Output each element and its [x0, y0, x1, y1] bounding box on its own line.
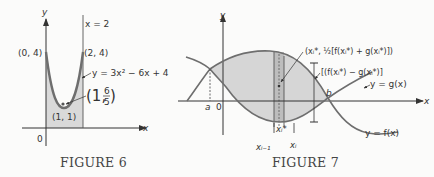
curve-g-label: y = g(x) [370, 79, 407, 89]
x-axis-label: x [142, 123, 149, 133]
y-axis-label: y [219, 10, 226, 20]
centroid-denominator: 5 [104, 97, 110, 107]
midpoint-label: (xᵢ*, ½[f(xᵢ*) + g(xᵢ*)]) [305, 47, 393, 56]
point-label-2-4: (2, 4) [84, 48, 108, 58]
centroid-suffix: ) [110, 87, 116, 105]
figure-canvas: y x 0 x = 2 (0, 4) (2, 4) (1, 1) y = 3x²… [0, 0, 434, 177]
origin-label: 0 [216, 102, 222, 112]
centroid-dot [61, 102, 64, 105]
sample-point-label: xᵢ* [275, 124, 287, 134]
point-label-0-4: (0, 4) [18, 48, 42, 58]
figure-7-caption: FIGURE 7 [272, 155, 339, 170]
bound-a-label: a [205, 102, 211, 112]
height-label: [(f(xᵢ*) − g(xᵢ*)] [321, 68, 383, 77]
left-endpoint-label: xᵢ₋₁ [255, 142, 270, 152]
bound-b-label: b [326, 88, 332, 98]
vertical-line-label: x = 2 [85, 19, 109, 29]
figure-6-caption: FIGURE 6 [60, 155, 127, 170]
right-endpoint-label: xᵢ [289, 140, 297, 150]
curve-f-label: y = f(x) [365, 128, 399, 138]
point-label-1-1: (1, 1) [52, 112, 76, 122]
figure-7: y x 0 a b (xᵢ*, ½[f(xᵢ*) + g(xᵢ*)]) [(f(… [178, 10, 430, 170]
y-axis-label: y [41, 7, 48, 17]
figures-svg: y x 0 x = 2 (0, 4) (2, 4) (1, 1) y = 3x²… [0, 0, 434, 177]
centroid-label: (1, 6 5 ) [86, 86, 116, 107]
strip-midpoint-dot [278, 85, 281, 88]
curve-equation-label: y = 3x² − 6x + 4 [92, 68, 169, 78]
figure-6: y x 0 x = 2 (0, 4) (2, 4) (1, 1) y = 3x²… [18, 7, 169, 170]
height-pointer [315, 73, 320, 79]
origin-label: 0 [37, 134, 43, 144]
x-axis-label: x [423, 96, 430, 106]
